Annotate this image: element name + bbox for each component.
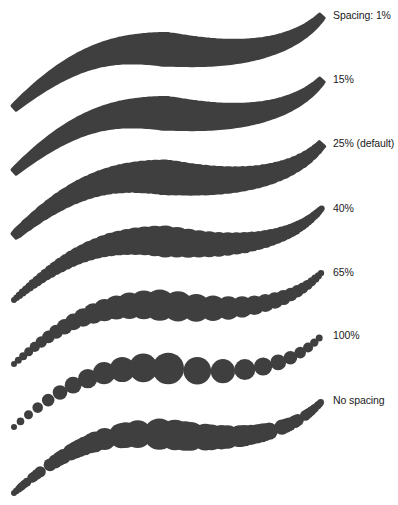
stroke-shape — [12, 142, 325, 239]
brush-dab — [318, 270, 324, 276]
spacing-label: 15% — [333, 73, 354, 85]
brush-stroke-65-percent — [11, 270, 324, 367]
brush-dab — [211, 359, 235, 383]
brush-dab — [152, 353, 184, 385]
brush-dab — [184, 357, 212, 385]
spacing-label: 25% (default) — [333, 137, 394, 149]
brush-dab — [32, 402, 43, 413]
brush-dab — [319, 205, 325, 211]
brush-dab — [316, 335, 323, 342]
spacing-label: 65% — [333, 266, 354, 278]
brush-dab — [254, 357, 272, 375]
brush-dab — [11, 424, 17, 430]
brush-dab — [42, 394, 55, 407]
stroke-shape — [12, 14, 324, 110]
spacing-label: No spacing — [333, 394, 385, 406]
brush-stroke-no-spacing — [11, 399, 324, 496]
spacing-label: Spacing: 1% — [333, 9, 391, 21]
brush-stroke-40-percent — [11, 205, 325, 303]
brush-dab — [234, 359, 255, 380]
spacing-label: 40% — [333, 202, 354, 214]
brush-dab — [24, 410, 33, 419]
brush-dab — [17, 418, 25, 426]
brush-stroke-100-percent — [11, 335, 323, 431]
spacing-label: 100% — [333, 329, 359, 341]
brush-dab — [317, 399, 324, 406]
brush-stroke-25-percent — [12, 142, 325, 239]
brush-dab — [35, 466, 46, 477]
brush-stroke-1-percent — [12, 14, 324, 110]
